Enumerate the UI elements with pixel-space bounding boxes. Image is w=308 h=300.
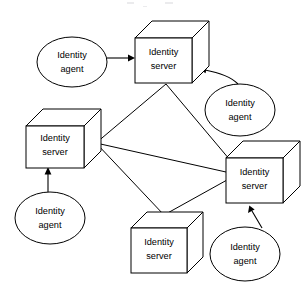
- node-server-right[interactable]: Identity server: [226, 141, 300, 203]
- arrow-bottomright-to-right-head: [248, 206, 255, 214]
- server-left-label-line1: Identity: [40, 133, 70, 143]
- diagram-canvas: Identity server Identity server Identity…: [0, 0, 308, 300]
- node-agent-bottomleft[interactable]: Identity agent: [15, 192, 85, 244]
- agent-bottomright-label-line1: Identity: [230, 242, 260, 252]
- agent-topleft-ellipse: [37, 37, 107, 87]
- server-right-label-line2: server: [242, 181, 268, 191]
- server-right-label-line1: Identity: [240, 167, 270, 177]
- agent-bottomleft-label-line2: agent: [39, 220, 62, 230]
- agent-bottomleft-ellipse: [15, 192, 85, 244]
- node-agent-bottomright[interactable]: Identity agent: [210, 227, 280, 281]
- agent-right-ellipse: [205, 84, 275, 136]
- server-bottom-label-line2: server: [146, 251, 172, 261]
- agent-topleft-label-line1: Identity: [57, 50, 87, 60]
- server-left-label-line2: server: [42, 147, 68, 157]
- link-left-right: [96, 143, 226, 172]
- link-left-bottom: [96, 143, 164, 215]
- agent-topleft-label-line2: agent: [61, 64, 84, 74]
- arrow-topleft-to-top-head: [128, 55, 135, 62]
- agent-right-label-line1: Identity: [225, 98, 255, 108]
- node-agent-topleft[interactable]: Identity agent: [37, 37, 107, 87]
- arrow-right-to-top-shaft: [205, 70, 238, 84]
- link-bottom-right: [164, 180, 227, 215]
- node-server-left[interactable]: Identity server: [26, 109, 101, 168]
- arrow-bottomright-to-right-shaft: [252, 211, 262, 228]
- agent-bottomleft-label-line1: Identity: [35, 206, 65, 216]
- agent-bottomright-ellipse: [210, 227, 280, 281]
- server-top-label-line1: Identity: [149, 47, 179, 57]
- agent-right-label-line2: agent: [229, 112, 252, 122]
- node-server-bottom[interactable]: Identity server: [131, 212, 203, 273]
- link-left-top: [96, 84, 166, 143]
- server-bottom-label-line1: Identity: [144, 237, 174, 247]
- node-server-top[interactable]: Identity server: [135, 21, 209, 83]
- server-top-label-line2: server: [151, 61, 177, 71]
- node-agent-right[interactable]: Identity agent: [205, 84, 275, 136]
- network-topology-diagram: Identity server Identity server Identity…: [0, 0, 308, 300]
- agent-bottomright-label-line2: agent: [234, 256, 257, 266]
